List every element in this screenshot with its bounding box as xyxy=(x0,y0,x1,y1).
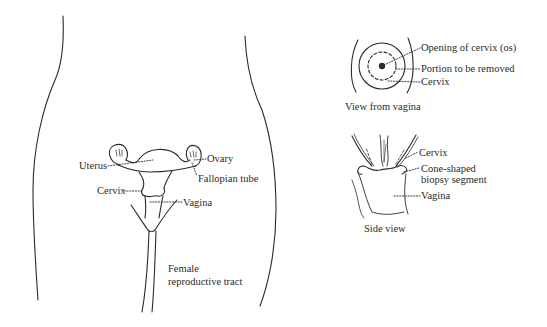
caption-side-view: Side view xyxy=(364,223,406,234)
side-view-leader-lines xyxy=(394,152,420,196)
side-view-drawing xyxy=(352,134,418,218)
caption-female-line1: Female xyxy=(168,263,199,274)
label-opening-of-cervix: Opening of cervix (os) xyxy=(421,42,516,53)
label-biopsy-segment: biopsy segment xyxy=(421,174,487,185)
caption-female-line2: reproductive tract xyxy=(168,276,242,287)
label-cervix-front: Cervix xyxy=(421,76,450,87)
label-cervix-side: Cervix xyxy=(419,147,448,158)
label-cone-shaped: Cone-shaped xyxy=(421,163,476,174)
label-uterus: Uterus xyxy=(79,160,107,171)
label-cervix: Cervix xyxy=(97,185,126,196)
view-from-vagina-drawing xyxy=(351,38,413,93)
caption-view-from-vagina: View from vagina xyxy=(345,101,421,112)
label-vagina-side: Vagina xyxy=(421,190,450,201)
label-ovary: Ovary xyxy=(207,153,233,164)
label-vagina: Vagina xyxy=(183,197,212,208)
label-fallopian-tube: Fallopian tube xyxy=(198,173,258,184)
label-portion-to-be-removed: Portion to be removed xyxy=(421,63,515,74)
